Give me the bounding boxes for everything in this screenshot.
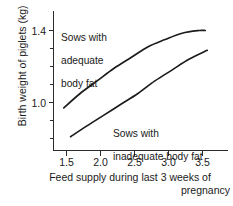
annotation-adequate-body-fat: Sows with adequate body fat	[61, 21, 107, 90]
x-tick-label-1-5: 1.5	[59, 156, 74, 168]
y-tick-label-1-4: 1.4	[31, 25, 46, 37]
y-axis-title: Birth weight of piglets (kg)	[17, 0, 29, 141]
chart-figure: 1.4 1.0 1.5 2.0 2.5 3.0 3.5 Birth weight…	[0, 0, 233, 206]
annotation-inadequate-line1: Sows with	[113, 128, 159, 139]
x-axis-title: Feed supply during last 3 weeks of pregn…	[30, 171, 230, 196]
annotation-adequate-line1: Sows with	[61, 32, 107, 43]
x-axis-title-line1: Feed supply during last 3 weeks of	[30, 171, 230, 184]
x-axis-title-line2: pregnancy	[30, 184, 230, 197]
annotation-inadequate-body-fat: Sows with inadequate body fat	[113, 117, 203, 163]
annotation-adequate-line3: body fat	[61, 78, 97, 89]
x-tick-label-2-0: 2.0	[93, 156, 108, 168]
y-tick-label-1-0: 1.0	[31, 97, 46, 109]
annotation-inadequate-line2: inadequate body fat	[113, 151, 203, 162]
annotation-adequate-line2: adequate	[61, 55, 104, 66]
